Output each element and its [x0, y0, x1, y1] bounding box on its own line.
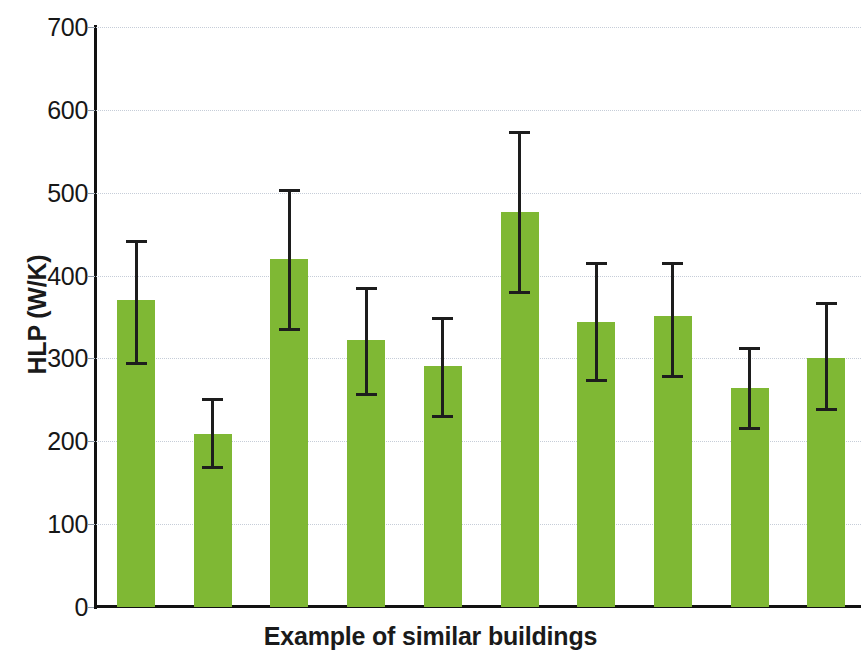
error-bar-cap-bottom — [356, 393, 377, 396]
y-axis-tick-labels: 0100200300400500600700 — [0, 0, 88, 667]
error-bar — [135, 240, 138, 365]
error-bar-cap-bottom — [509, 291, 530, 294]
error-bar-cap-bottom — [432, 415, 453, 418]
error-bar-cap-bottom — [279, 328, 300, 331]
y-tick-mark — [87, 358, 94, 359]
error-bar — [211, 398, 214, 469]
y-tick-label: 700 — [2, 13, 88, 42]
error-bar — [288, 189, 291, 332]
y-tick-label: 400 — [2, 261, 88, 290]
gridline — [94, 110, 861, 111]
error-bar — [595, 262, 598, 381]
error-bar — [518, 131, 521, 293]
error-bar — [365, 287, 368, 396]
error-bar — [671, 262, 674, 378]
error-bar — [748, 347, 751, 430]
y-tick-mark — [87, 276, 94, 277]
error-bar-cap-top — [662, 262, 683, 265]
y-tick-label: 0 — [2, 593, 88, 622]
y-tick-label: 600 — [2, 95, 88, 124]
gridline — [94, 276, 861, 277]
y-tick-mark — [87, 524, 94, 525]
error-bar-cap-top — [432, 317, 453, 320]
y-tick-label: 200 — [2, 427, 88, 456]
error-bar-cap-top — [202, 398, 223, 401]
y-tick-label: 300 — [2, 344, 88, 373]
chart-container: HLP (W/K) 0100200300400500600700 Example… — [0, 0, 861, 667]
error-bar-cap-top — [279, 189, 300, 192]
error-bar-cap-top — [816, 302, 837, 305]
error-bar-cap-top — [509, 131, 530, 134]
error-bar-cap-bottom — [662, 375, 683, 378]
gridline — [94, 358, 861, 359]
error-bar-cap-bottom — [586, 379, 607, 382]
error-bar-cap-top — [126, 240, 147, 243]
y-tick-label: 100 — [2, 510, 88, 539]
error-bar-cap-bottom — [816, 408, 837, 411]
y-tick-mark — [87, 110, 94, 111]
error-bar-cap-top — [739, 347, 760, 350]
error-bar-cap-top — [586, 262, 607, 265]
error-bar-cap-bottom — [202, 466, 223, 469]
x-axis-title: Example of similar buildings — [0, 622, 861, 651]
error-bar-cap-bottom — [739, 427, 760, 430]
y-tick-mark — [87, 607, 94, 608]
error-bar — [441, 317, 444, 418]
y-tick-mark — [87, 441, 94, 442]
y-tick-label: 500 — [2, 178, 88, 207]
error-bar-cap-top — [356, 287, 377, 290]
y-tick-mark — [87, 193, 94, 194]
y-tick-mark — [87, 27, 94, 28]
gridline — [94, 193, 861, 194]
gridline — [94, 27, 861, 28]
error-bar-cap-bottom — [126, 362, 147, 365]
plot-area — [94, 27, 861, 607]
error-bar — [825, 302, 828, 411]
